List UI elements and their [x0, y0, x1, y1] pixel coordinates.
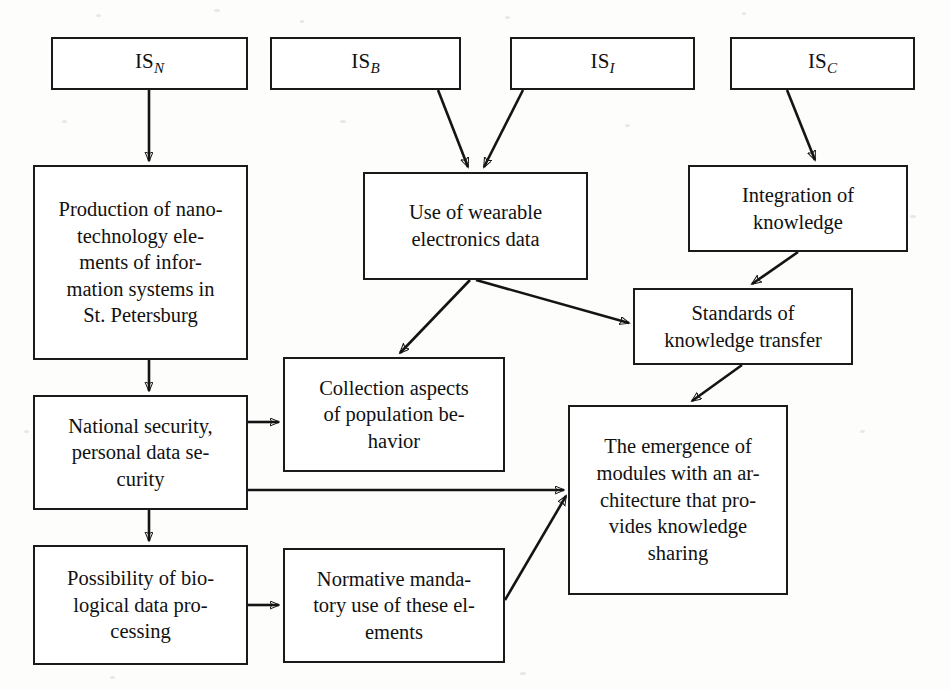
paper-speck [96, 14, 101, 17]
node-wearable-label: Use of wearable electronics data [369, 199, 582, 252]
node-collection[interactable]: Collection aspects of population be- hav… [283, 357, 505, 472]
paper-speck [214, 9, 220, 12]
node-integration[interactable]: Integration of knowledge [688, 165, 908, 252]
edge-is-c-to-integration [787, 90, 815, 160]
paper-speck [300, 20, 304, 23]
node-biological[interactable]: Possibility of bio- logical data pro- ce… [33, 545, 248, 665]
diagram-canvas: ISN ISB ISI ISC Production of nano- tech… [0, 0, 950, 690]
node-integration-label: Integration of knowledge [694, 182, 902, 235]
edge-wearable-to-standards [476, 280, 629, 323]
node-is-c[interactable]: ISC [730, 37, 915, 90]
node-standards-label: Standards of knowledge transfer [639, 300, 847, 353]
node-is-i-subscript: I [610, 60, 615, 76]
paper-speck [625, 124, 630, 127]
node-is-c-label: ISC [736, 48, 909, 79]
paper-speck [742, 12, 746, 15]
edge-is-b-to-wearable [438, 90, 468, 167]
node-is-n-subscript: N [154, 60, 164, 76]
edge-normative-to-emergence [505, 496, 566, 600]
paper-speck [860, 430, 865, 433]
edge-standards-to-emergence [692, 365, 742, 401]
node-collection-label: Collection aspects of population be- hav… [289, 375, 499, 455]
edge-wearable-to-collection [400, 280, 470, 353]
edge-is-i-to-wearable [484, 90, 523, 167]
node-is-i[interactable]: ISI [510, 37, 695, 90]
node-emergence[interactable]: The emergence of modules with an ar- chi… [568, 405, 788, 595]
node-production[interactable]: Production of nano- technology ele- ment… [33, 165, 248, 360]
paper-speck [110, 676, 115, 679]
node-is-i-label: ISI [516, 48, 689, 79]
node-normative[interactable]: Normative manda- tory use of these el- e… [283, 548, 505, 663]
node-is-c-subscript: C [827, 60, 837, 76]
paper-speck [24, 430, 29, 433]
node-is-b-subscript: B [370, 60, 379, 76]
node-is-n-label: ISN [57, 48, 242, 79]
node-is-b-label: ISB [276, 48, 455, 79]
node-is-b[interactable]: ISB [270, 37, 461, 90]
node-emergence-label: The emergence of modules with an ar- chi… [574, 433, 782, 566]
node-standards[interactable]: Standards of knowledge transfer [633, 288, 853, 365]
paper-speck [520, 672, 526, 675]
paper-speck [340, 120, 346, 123]
node-wearable[interactable]: Use of wearable electronics data [363, 172, 588, 280]
node-biological-label: Possibility of bio- logical data pro- ce… [39, 565, 242, 645]
paper-speck [62, 120, 67, 123]
node-national-security-label: National security, personal data se- cur… [39, 413, 242, 493]
node-production-label: Production of nano- technology ele- ment… [39, 196, 242, 329]
paper-speck [505, 16, 510, 19]
node-national-security[interactable]: National security, personal data se- cur… [33, 395, 248, 510]
paper-speck [910, 215, 916, 218]
node-normative-label: Normative manda- tory use of these el- e… [289, 566, 499, 646]
edge-integration-to-standards [752, 252, 798, 284]
node-is-n[interactable]: ISN [51, 37, 248, 90]
